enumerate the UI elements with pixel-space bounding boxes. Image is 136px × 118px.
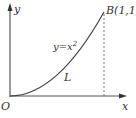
point-b-label: B(1,1): [106, 5, 136, 16]
origin-label: O: [1, 101, 10, 112]
x-axis-arrow-icon: [119, 94, 127, 99]
parabola-diagram: y x O B(1,1) y=x2 L: [0, 0, 136, 118]
curve-name-label: L: [64, 72, 71, 83]
curve-equation-label: y=x2: [53, 41, 77, 52]
y-axis-label: y: [14, 4, 20, 15]
equation-text: y=x: [53, 41, 73, 52]
parabola-curve: [10, 12, 104, 96]
y-axis-arrow-icon: [8, 3, 13, 11]
diagram-graphics: [0, 0, 136, 118]
equation-exponent: 2: [73, 40, 77, 48]
x-axis-label: x: [122, 101, 128, 112]
